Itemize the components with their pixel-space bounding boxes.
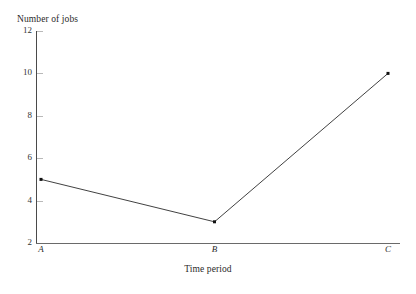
data-point-A xyxy=(40,178,43,181)
line-chart-figure: Number of jobs 24681012 ABC Time period xyxy=(0,0,416,294)
y-tick-mark xyxy=(37,116,43,117)
y-tick-label: 2 xyxy=(4,238,32,247)
x-axis-line xyxy=(36,243,400,244)
y-tick-label: 10 xyxy=(4,68,32,77)
y-tick-mark xyxy=(37,201,43,202)
series-line-number-of-jobs xyxy=(41,73,388,221)
y-tick-label: 12 xyxy=(4,26,32,35)
series-markers xyxy=(40,72,390,223)
y-tick-label: 4 xyxy=(4,196,32,205)
x-axis-title: Time period xyxy=(0,264,416,274)
y-tick-mark xyxy=(37,158,43,159)
x-tick-label-A: A xyxy=(29,245,53,254)
y-tick-label: 8 xyxy=(4,111,32,120)
y-tick-mark xyxy=(37,31,43,32)
data-point-B xyxy=(213,220,216,223)
data-point-C xyxy=(387,72,390,75)
y-tick-mark xyxy=(37,73,43,74)
x-tick-label-C: C xyxy=(376,245,400,254)
y-axis-line xyxy=(36,31,37,244)
y-axis-title: Number of jobs xyxy=(17,14,78,24)
x-tick-label-B: B xyxy=(203,245,227,254)
y-tick-label: 6 xyxy=(4,153,32,162)
